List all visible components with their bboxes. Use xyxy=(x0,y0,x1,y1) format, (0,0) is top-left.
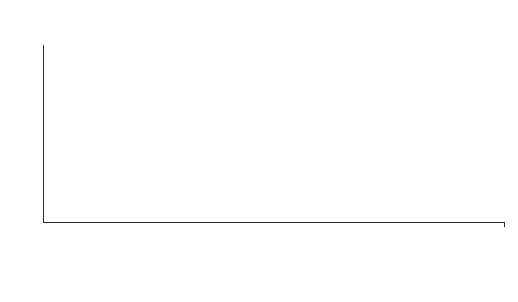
chart-canvas xyxy=(0,0,518,302)
bars-layer xyxy=(0,0,518,223)
